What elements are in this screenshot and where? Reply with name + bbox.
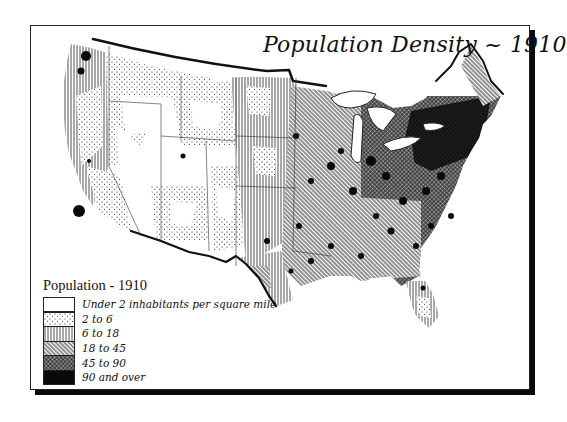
legend-label: 2 to 6 [82,313,113,325]
legend-title: Population - 1910 [43,277,276,294]
legend-item-18-to-45: 18 to 45 [43,341,276,356]
legend-item-45-to-90: 45 to 90 [43,355,276,370]
legend-swatch-blank [43,297,75,312]
legend-swatch-solid [43,370,75,385]
legend-label: 6 to 18 [82,327,119,339]
legend-swatch-stipple [43,312,75,327]
legend-item-6-to-18: 6 to 18 [43,326,276,341]
legend-swatch-crosshatch [43,355,75,370]
legend: Population - 1910 Under 2 inhabitants pe… [43,277,276,385]
legend-swatch-vertical-lines [43,326,75,341]
map-title-text: Population Density ~ 1910 [263,32,567,57]
legend-label: Under 2 inhabitants per square mile [82,298,276,310]
legend-swatch-diagonal-hatch [43,341,75,356]
map-card: Population Density ~ 1910 Population - 1… [30,25,530,390]
legend-label: 45 to 90 [82,357,126,369]
legend-item-2-to-6: 2 to 6 [43,312,276,327]
legend-label: 90 and over [82,371,145,383]
legend-item-under-2: Under 2 inhabitants per square mile [43,297,276,312]
legend-item-90-and-over: 90 and over [43,370,276,385]
legend-label: 18 to 45 [82,342,126,354]
